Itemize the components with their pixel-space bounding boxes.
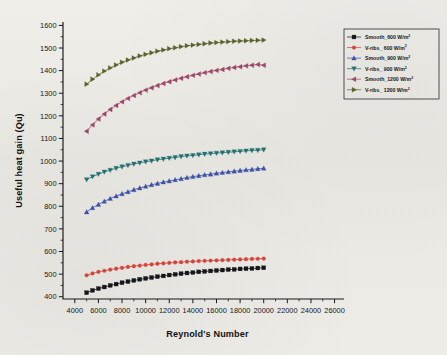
data-point-marker bbox=[262, 266, 266, 270]
legend-label: Smooth_600 W/m2 bbox=[365, 34, 410, 40]
data-point-marker bbox=[132, 264, 136, 268]
data-point-marker bbox=[114, 267, 118, 271]
data-point-marker bbox=[238, 39, 242, 44]
data-point-marker bbox=[185, 43, 189, 48]
x-tick-label: 22000 bbox=[277, 306, 298, 315]
y-tick-label: 500 bbox=[44, 270, 56, 279]
data-point-marker bbox=[85, 291, 89, 295]
x-tick-label: 10000 bbox=[135, 306, 156, 315]
data-point-marker bbox=[179, 44, 183, 49]
data-point-marker bbox=[91, 272, 95, 276]
data-point-marker bbox=[250, 267, 254, 271]
data-point-marker bbox=[97, 270, 101, 274]
x-tick-label: 14000 bbox=[183, 306, 204, 315]
series-3 bbox=[84, 148, 266, 182]
data-point-marker bbox=[102, 69, 106, 74]
x-tick-label: 4000 bbox=[67, 306, 83, 315]
data-point-marker bbox=[209, 269, 213, 273]
data-point-marker bbox=[102, 269, 106, 273]
data-point-marker bbox=[220, 67, 224, 72]
y-tick-label: 600 bbox=[44, 247, 56, 256]
data-point-marker bbox=[156, 275, 160, 279]
data-point-marker bbox=[191, 260, 195, 264]
data-point-marker bbox=[102, 199, 107, 203]
data-point-marker bbox=[256, 266, 260, 270]
data-point-marker bbox=[108, 283, 112, 287]
data-point-marker bbox=[250, 257, 254, 261]
data-point-marker bbox=[138, 264, 142, 268]
data-point-marker bbox=[132, 279, 136, 283]
data-point-marker bbox=[144, 52, 148, 57]
data-point-marker bbox=[203, 41, 207, 46]
y-tick-label: 1000 bbox=[40, 157, 56, 166]
x-tick-label: 24000 bbox=[301, 306, 322, 315]
data-point-marker bbox=[185, 260, 189, 264]
data-point-marker bbox=[96, 172, 101, 176]
data-point-marker bbox=[114, 282, 118, 286]
data-point-marker bbox=[249, 63, 253, 68]
data-point-marker bbox=[167, 261, 171, 265]
y-tick-label: 400 bbox=[44, 292, 56, 301]
data-point-marker bbox=[197, 42, 201, 47]
data-point-marker bbox=[256, 38, 260, 43]
data-point-marker bbox=[150, 50, 154, 55]
data-point-marker bbox=[238, 267, 242, 271]
data-point-marker bbox=[238, 258, 242, 262]
data-point-marker bbox=[244, 38, 248, 43]
data-point-marker bbox=[108, 268, 112, 272]
legend-label: Smooth_900 W/m2 bbox=[365, 55, 410, 61]
data-point-marker bbox=[85, 273, 89, 277]
x-tick-label: 8000 bbox=[114, 306, 130, 315]
data-point-marker bbox=[214, 68, 218, 73]
data-point-marker bbox=[226, 66, 230, 71]
data-point-marker bbox=[161, 81, 165, 86]
data-point-marker bbox=[196, 72, 200, 77]
data-point-marker bbox=[203, 259, 207, 263]
y-axis-title: Useful heat gain (Qu) bbox=[14, 113, 24, 208]
data-point-marker bbox=[190, 73, 194, 78]
data-point-marker bbox=[156, 262, 160, 266]
data-point-marker bbox=[150, 276, 154, 280]
data-point-marker bbox=[150, 263, 154, 267]
data-point-marker bbox=[261, 63, 265, 68]
plot-frame bbox=[63, 22, 344, 299]
data-point-marker bbox=[126, 58, 130, 63]
data-point-marker bbox=[173, 272, 177, 276]
data-point-marker bbox=[244, 257, 248, 261]
data-point-marker bbox=[84, 178, 89, 182]
data-point-marker bbox=[173, 77, 177, 82]
data-point-marker bbox=[102, 285, 106, 289]
x-axis-title: Reynold's Number bbox=[166, 329, 249, 339]
data-point-marker bbox=[108, 196, 113, 200]
data-point-marker bbox=[91, 288, 95, 292]
data-point-marker bbox=[352, 77, 356, 82]
y-tick-label: 700 bbox=[44, 225, 56, 234]
data-point-marker bbox=[208, 69, 212, 74]
data-point-marker bbox=[232, 267, 236, 271]
data-point-marker bbox=[226, 268, 230, 272]
series-2 bbox=[84, 166, 266, 214]
data-point-marker bbox=[226, 258, 230, 262]
data-point-marker bbox=[144, 263, 148, 267]
data-point-marker bbox=[126, 280, 130, 284]
data-point-marker bbox=[203, 269, 207, 273]
x-tick-label: 12000 bbox=[159, 306, 180, 315]
data-point-marker bbox=[120, 266, 124, 270]
data-point-marker bbox=[179, 272, 183, 276]
data-point-marker bbox=[179, 260, 183, 264]
data-point-marker bbox=[84, 129, 88, 134]
x-tick-label: 16000 bbox=[206, 306, 227, 315]
y-tick-label: 1400 bbox=[40, 66, 56, 75]
data-point-marker bbox=[125, 96, 129, 101]
y-tick-label: 1600 bbox=[40, 21, 56, 30]
legend-item-1: V-ribs_ 600 W/m2 bbox=[347, 44, 407, 50]
data-point-marker bbox=[149, 85, 153, 90]
data-point-marker bbox=[256, 257, 260, 261]
legend-item-0: Smooth_600 W/m2 bbox=[347, 34, 410, 40]
data-point-marker bbox=[232, 39, 236, 44]
legend-item-3: V-ribs_ 900 W/m2 bbox=[347, 66, 407, 72]
data-point-marker bbox=[352, 46, 356, 50]
data-point-marker bbox=[352, 87, 356, 92]
data-point-marker bbox=[155, 83, 159, 88]
data-point-marker bbox=[209, 41, 213, 46]
